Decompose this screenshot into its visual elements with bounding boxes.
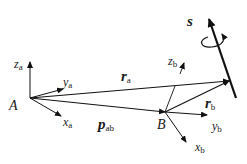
origin-a-label: A <box>9 99 18 113</box>
rb-label: rb <box>205 96 215 112</box>
yb-axis-arrow <box>165 112 207 115</box>
rotation-arrow-icon <box>202 34 224 47</box>
zb-label: zb <box>168 55 177 69</box>
xb-axis-arrow <box>165 112 186 142</box>
kinematic-frames-diagram: A za ya xa pab ra rb B zb yb xb s <box>0 0 247 164</box>
pab-label: pab <box>98 117 114 133</box>
screw-axis-line <box>209 19 236 98</box>
screw-axis-label: s <box>187 14 193 29</box>
yb-label: yb <box>212 120 222 134</box>
ya-label: ya <box>63 76 72 90</box>
origin-b-label: B <box>157 118 166 132</box>
xb-label: xb <box>195 141 205 155</box>
za-label: za <box>14 58 23 72</box>
xa-label: xa <box>63 116 72 130</box>
ra-label: ra <box>121 69 131 85</box>
zb-axis-arrow <box>180 63 184 74</box>
